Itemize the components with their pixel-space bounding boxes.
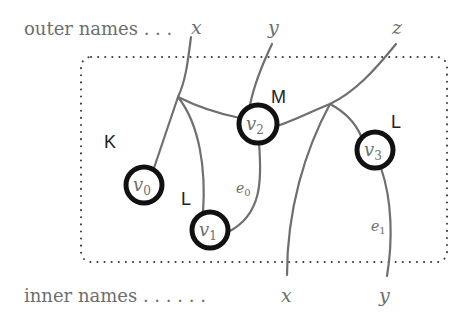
link-b-v3: [330, 104, 361, 136]
link-b-v2: [277, 104, 330, 126]
bigraph-diagram: outer names . . . x y z inner names . . …: [0, 0, 473, 323]
outer-names-label: outer names . . .: [24, 18, 172, 39]
inner-names-label: inner names . . . . . .: [24, 285, 206, 306]
link-a-v2: [178, 97, 240, 118]
node-v1-control: L: [181, 189, 191, 209]
link-b-inner-x: [287, 104, 330, 275]
node-v2-control: M: [271, 87, 286, 107]
link-outer-z: [330, 44, 396, 104]
node-v0: v0 K: [104, 132, 162, 203]
inner-name-y: y: [378, 284, 390, 306]
node-v0-control: K: [104, 132, 116, 152]
edge-label-e1: e1: [371, 218, 386, 236]
link-a-v0: [154, 97, 178, 168]
node-v3: v3 L: [357, 112, 401, 168]
edge-label-e0: e0: [236, 180, 251, 198]
edge-e1: [381, 168, 391, 276]
outer-name-x: x: [191, 16, 202, 38]
inner-name-x: x: [281, 284, 292, 306]
link-outer-x: [178, 37, 191, 97]
link-outer-y: [250, 44, 272, 105]
node-v2: v2 M: [239, 87, 286, 143]
outer-name-z: z: [391, 16, 403, 38]
node-v3-control: L: [391, 112, 401, 132]
outer-name-y: y: [267, 16, 279, 38]
